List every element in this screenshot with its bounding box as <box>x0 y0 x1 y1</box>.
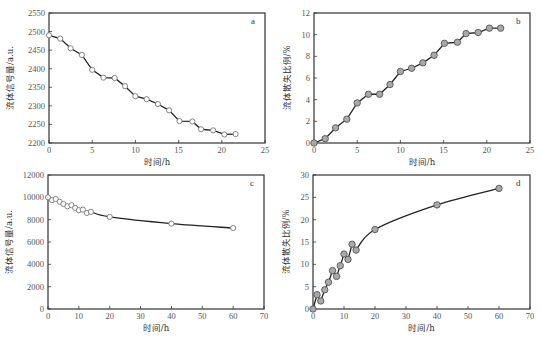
data-point-marker <box>441 40 447 46</box>
y-tick-label: 2500 <box>28 27 45 37</box>
y-tick-label: 2550 <box>28 8 45 18</box>
x-tick-label: 15 <box>174 145 183 155</box>
y-tick-label: 15 <box>301 237 310 247</box>
series-line <box>49 35 236 134</box>
data-point-marker <box>169 221 174 226</box>
x-axis-label: 时间/h <box>143 323 170 333</box>
x-tick-label: 50 <box>464 311 473 321</box>
data-point-marker <box>233 131 238 136</box>
y-tick-label: 2300 <box>28 101 45 111</box>
plot-frame <box>313 175 530 309</box>
x-tick-label: 20 <box>483 145 492 155</box>
y-tick-label: 0 <box>40 304 44 314</box>
data-point-marker <box>90 67 95 72</box>
series-line <box>313 188 499 309</box>
x-tick-label: 70 <box>260 311 269 321</box>
y-tick-label: 4000 <box>27 259 44 269</box>
panel-a-signal-short: 0510152025220022502300235024002450250025… <box>5 8 269 167</box>
data-point-marker <box>101 75 106 80</box>
x-tick-label: 25 <box>526 145 535 155</box>
x-axis-label: 时间/h <box>144 157 171 167</box>
data-point-marker <box>211 128 216 133</box>
data-point-marker <box>486 25 492 31</box>
x-tick-label: 40 <box>433 311 442 321</box>
x-tick-label: 30 <box>136 311 145 321</box>
x-tick-label: 10 <box>340 311 349 321</box>
x-tick-label: 30 <box>402 311 411 321</box>
data-point-marker <box>408 65 414 71</box>
panel-letter: a <box>251 16 255 26</box>
y-tick-label: 2 <box>306 116 310 126</box>
data-point-marker <box>434 202 440 208</box>
data-point-marker <box>144 97 149 102</box>
data-point-marker <box>122 84 127 89</box>
data-point-marker <box>190 119 195 124</box>
data-point-marker <box>353 247 359 253</box>
y-tick-label: 6 <box>306 73 310 83</box>
y-tick-label: 25 <box>301 192 310 202</box>
data-point-marker <box>354 100 360 106</box>
series-line <box>48 197 233 228</box>
data-point-marker <box>318 298 324 304</box>
data-point-marker <box>68 46 73 51</box>
x-tick-label: 5 <box>90 145 94 155</box>
y-tick-label: 12 <box>302 8 311 18</box>
data-point-marker <box>322 135 328 141</box>
data-point-marker <box>376 91 382 97</box>
y-axis-label: 流体散失比例/% <box>282 46 292 111</box>
data-point-marker <box>58 36 63 41</box>
data-point-marker <box>372 226 378 232</box>
data-point-marker <box>314 292 320 298</box>
y-tick-label: 10 <box>302 30 311 40</box>
y-tick-label: 10000 <box>23 192 44 202</box>
x-axis-label: 时间/h <box>409 157 436 167</box>
data-point-marker <box>332 125 338 131</box>
data-point-marker <box>112 75 117 80</box>
y-tick-label: 5 <box>305 282 309 292</box>
x-tick-label: 60 <box>229 311 238 321</box>
data-point-marker <box>133 94 138 99</box>
y-tick-label: 8000 <box>27 215 44 225</box>
y-axis-label: 流体信号量/a.u. <box>4 210 14 274</box>
data-point-marker <box>329 267 335 273</box>
data-point-marker <box>387 81 393 87</box>
data-point-marker <box>337 262 343 268</box>
data-point-marker <box>475 29 481 35</box>
series-line <box>314 28 501 143</box>
y-tick-label: 2250 <box>28 119 45 129</box>
data-point-marker <box>497 25 503 31</box>
y-axis-label: 流体信号量/a.u. <box>5 46 15 110</box>
x-tick-label: 20 <box>371 311 380 321</box>
plot-frame <box>49 13 265 143</box>
data-point-marker <box>454 39 460 45</box>
data-point-marker <box>155 101 160 106</box>
data-point-marker <box>107 214 112 219</box>
data-point-marker <box>345 256 351 262</box>
data-point-marker <box>397 68 403 74</box>
data-point-marker <box>88 209 93 214</box>
y-tick-label: 2000 <box>27 282 44 292</box>
data-point-marker <box>231 225 236 230</box>
y-axis-label: 流体散失比例/% <box>281 210 291 275</box>
plot-frame <box>314 13 530 143</box>
y-tick-label: 30 <box>301 170 310 180</box>
panel-letter: d <box>516 178 521 188</box>
x-axis-label: 时间/h <box>408 323 435 333</box>
data-point-marker <box>310 306 316 312</box>
data-point-marker <box>166 108 171 113</box>
x-tick-label: 5 <box>355 145 359 155</box>
panel-d-loss-ratio-long: 010203040506070051015202530时间/h流体散失比例/%d <box>281 170 534 333</box>
data-point-marker <box>344 116 350 122</box>
x-tick-label: 60 <box>495 311 504 321</box>
figure-canvas: 0510152025220022502300235024002450250025… <box>0 0 541 344</box>
data-point-marker <box>496 185 502 191</box>
data-point-marker <box>311 140 317 146</box>
y-tick-label: 0 <box>306 138 310 148</box>
y-tick-label: 4 <box>306 95 311 105</box>
data-point-marker <box>325 279 331 285</box>
y-tick-label: 2350 <box>28 82 45 92</box>
panel-letter: c <box>250 178 254 188</box>
y-tick-label: 2400 <box>28 64 45 74</box>
data-point-marker <box>463 30 469 36</box>
x-tick-label: 20 <box>218 145 227 155</box>
